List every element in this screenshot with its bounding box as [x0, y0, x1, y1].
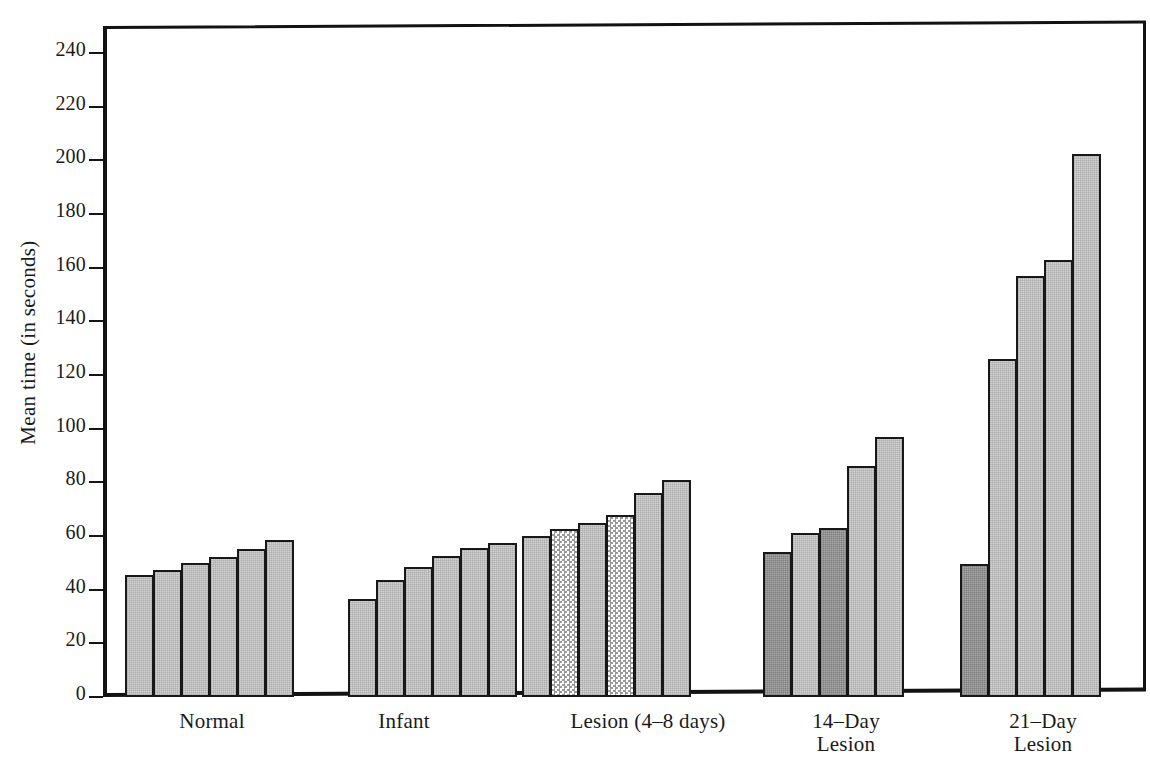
bar: [960, 564, 989, 697]
bar-chart: Mean time (in seconds) 02040608010012014…: [0, 0, 1150, 768]
bar: [209, 557, 238, 697]
bar: [606, 515, 635, 698]
bar: [578, 523, 607, 697]
bar: [376, 580, 405, 697]
bar: [634, 493, 663, 697]
y-tick-label: 120: [16, 360, 86, 383]
bar: [522, 536, 551, 697]
y-tick-mark: [89, 696, 103, 698]
bar: [265, 540, 294, 697]
y-tick-label: 160: [16, 253, 86, 276]
bar: [988, 359, 1017, 697]
y-tick-mark: [89, 159, 103, 161]
bar: [791, 533, 820, 697]
bar: [153, 570, 182, 697]
y-tick-label: 240: [16, 38, 86, 61]
bar: [237, 549, 266, 697]
bar: [875, 437, 904, 697]
x-axis-group-label: 21–Day Lesion: [913, 710, 1150, 755]
y-tick-label: 40: [16, 575, 86, 598]
y-tick-label: 200: [16, 145, 86, 168]
y-tick-label: 220: [16, 92, 86, 115]
y-tick-label: 0: [16, 682, 86, 705]
bar: [460, 548, 489, 697]
bar: [763, 552, 792, 697]
bar: [819, 528, 848, 697]
y-tick-mark: [89, 642, 103, 644]
y-tick-mark: [89, 589, 103, 591]
y-tick-label: 180: [16, 199, 86, 222]
bar: [550, 529, 579, 697]
y-tick-mark: [89, 320, 103, 322]
bar: [662, 480, 691, 697]
y-tick-mark: [89, 374, 103, 376]
bar: [1072, 154, 1101, 698]
bar: [348, 599, 377, 697]
y-tick-mark: [89, 428, 103, 430]
bar: [1016, 276, 1045, 697]
y-tick-label: 60: [16, 521, 86, 544]
plot-area: 020406080100120140160180200220240: [103, 26, 1146, 697]
bar: [125, 575, 154, 697]
y-tick-mark: [89, 106, 103, 108]
bar: [432, 556, 461, 697]
y-tick-mark: [89, 535, 103, 537]
y-tick-mark: [89, 213, 103, 215]
y-tick-label: 140: [16, 306, 86, 329]
x-axis-group-label: Infant: [274, 710, 534, 733]
y-tick-label: 100: [16, 414, 86, 437]
y-tick-label: 20: [16, 628, 86, 651]
bar: [488, 543, 517, 697]
bar: [404, 567, 433, 697]
y-tick-mark: [89, 52, 103, 54]
bar: [847, 466, 876, 697]
y-tick-label: 80: [16, 467, 86, 490]
y-tick-mark: [89, 267, 103, 269]
y-tick-mark: [89, 481, 103, 483]
bar: [181, 563, 210, 697]
bar: [1044, 260, 1073, 697]
